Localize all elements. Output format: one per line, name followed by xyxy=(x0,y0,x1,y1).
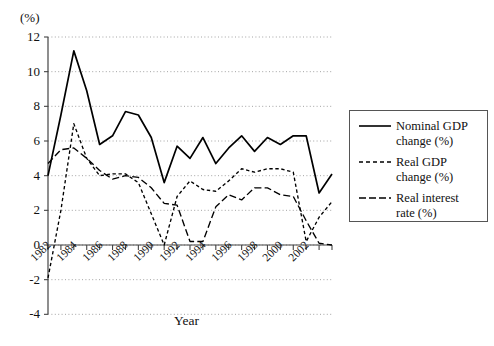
axis-lines xyxy=(48,37,332,314)
legend-entry-real-interest: Real interest rate (%) xyxy=(358,191,459,220)
y-tick-label: 2 xyxy=(14,202,40,218)
legend-line-dotted-icon xyxy=(358,155,392,168)
legend-entry-real-gdp: Real GDP change (%) xyxy=(358,155,453,184)
y-tick-label: 12 xyxy=(14,29,40,45)
y-tick-label: -2 xyxy=(14,272,40,288)
y-tick-label: 10 xyxy=(14,64,40,80)
legend-label-real-gdp: Real GDP change (%) xyxy=(396,155,453,184)
x-axis-title: Year xyxy=(174,313,199,329)
legend-box: Nominal GDP change (%) Real GDP change (… xyxy=(349,110,488,222)
y-tick-label: 8 xyxy=(14,98,40,114)
gridlines xyxy=(48,37,332,314)
legend-entry-nominal-gdp: Nominal GDP change (%) xyxy=(358,119,468,148)
series-line-2 xyxy=(48,148,332,245)
chart-figure: (%) 121086420-2-4 1982198419861988199019… xyxy=(0,0,494,346)
legend-label-real-interest: Real interest rate (%) xyxy=(396,191,459,220)
legend-line-dashed-icon xyxy=(358,191,392,204)
legend-label-nominal-gdp: Nominal GDP change (%) xyxy=(396,119,468,148)
legend-line-solid-icon xyxy=(358,119,392,132)
y-tick-label: 4 xyxy=(14,168,40,184)
y-tick-label: 6 xyxy=(14,133,40,149)
y-tick-label: -4 xyxy=(14,306,40,322)
